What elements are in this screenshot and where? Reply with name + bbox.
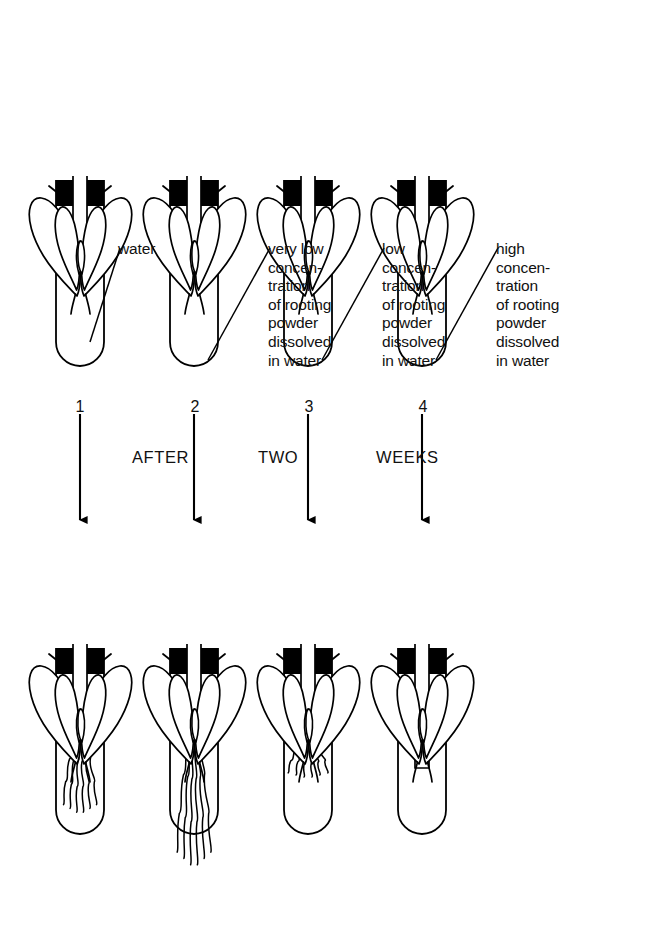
tube-1-label: water — [118, 240, 155, 259]
tube-number-1: 1 — [65, 398, 95, 416]
tube-number-2: 2 — [180, 398, 210, 416]
stage-label-weeks: WEEKS — [376, 448, 439, 467]
diagram-canvas — [0, 0, 654, 927]
tube-4-label: high concen- tration of rooting powder d… — [496, 240, 559, 370]
tube-2-label: very low concen- tration of rooting powd… — [268, 240, 331, 370]
tube-number-4: 4 — [408, 398, 438, 416]
test-tube-2-before — [143, 176, 245, 366]
test-tube-2-after — [143, 644, 245, 865]
tube-3-label: low concen- tration of rooting powder di… — [382, 240, 445, 370]
test-tube-4-after — [371, 644, 473, 834]
stage-label-two: TWO — [258, 448, 298, 467]
test-tube-1-before — [29, 176, 131, 366]
rooting-powder-experiment-figure: water very low concen- tration of rootin… — [0, 0, 654, 927]
stage-label-after: AFTER — [132, 448, 189, 467]
test-tube-3-after — [257, 644, 359, 834]
tube-number-3: 3 — [294, 398, 324, 416]
test-tube-1-after — [29, 644, 131, 834]
